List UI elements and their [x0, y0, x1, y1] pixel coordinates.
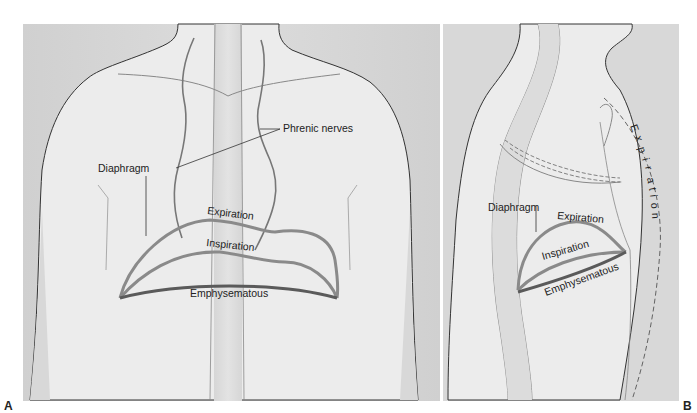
diaphragm-figure: Phrenic nerves Diaphragm Expiration Insp…: [0, 0, 697, 413]
panel-b: Diaphragm Expiration Inspiration Emphyse…: [443, 24, 679, 401]
panel-letter-a: A: [4, 399, 13, 413]
svg-text:n: n: [650, 213, 662, 219]
label-phrenic-nerves: Phrenic nerves: [283, 122, 353, 134]
label-diaphragm: Diaphragm: [98, 162, 150, 174]
panel-a: Phrenic nerves Diaphragm Expiration Insp…: [23, 24, 440, 401]
label-diaphragm-b: Diaphragm: [488, 201, 540, 213]
svg-text:o: o: [649, 202, 661, 209]
panel-letter-b: B: [683, 399, 692, 413]
label-emphysematous: Emphysematous: [190, 287, 268, 299]
